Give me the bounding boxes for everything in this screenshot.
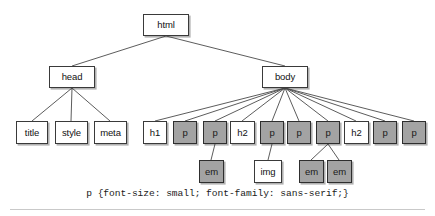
tree-node-p3[interactable]: p	[260, 121, 284, 144]
tree-node-em1[interactable]: em	[199, 160, 224, 183]
tree-edge-p2-em1	[211, 144, 215, 160]
tree-node-p7[interactable]: p	[402, 121, 426, 144]
tree-node-label: p	[269, 128, 274, 138]
tree-node-style[interactable]: style	[55, 121, 88, 144]
tree-node-label: title	[25, 128, 39, 138]
tree-edge-head-style	[71, 88, 72, 121]
tree-edge-body-p4	[285, 88, 299, 121]
tree-node-label: p	[411, 128, 416, 138]
tree-node-label: p	[325, 128, 330, 138]
tree-node-label: h2	[351, 128, 361, 138]
bottom-divider	[10, 209, 425, 210]
tree-node-label: meta	[100, 128, 121, 138]
tree-node-label: head	[62, 72, 83, 82]
tree-node-h2b[interactable]: h2	[344, 121, 369, 144]
tree-node-label: body	[275, 72, 295, 82]
tree-edge-body-p7	[285, 88, 414, 121]
tree-node-label: img	[260, 167, 275, 177]
tree-edge-body-p5	[285, 88, 328, 121]
tree-edge-body-p6	[285, 88, 385, 121]
tree-node-html[interactable]: html	[143, 14, 189, 36]
tree-node-label: h2	[237, 128, 247, 138]
tree-node-head[interactable]: head	[49, 66, 95, 88]
tree-node-label: p	[296, 128, 301, 138]
tree-node-label: p	[182, 128, 187, 138]
tree-node-label: em	[205, 167, 218, 177]
tree-node-em2[interactable]: em	[299, 160, 324, 183]
tree-node-title[interactable]: title	[16, 121, 48, 144]
tree-node-label: p	[382, 128, 387, 138]
tree-node-p6[interactable]: p	[373, 121, 397, 144]
tree-edge-head-title	[32, 88, 72, 121]
tree-edge-html-body	[166, 36, 285, 66]
dom-tree-diagram: htmlheadbodytitlestylemetah1pph2ppph2ppe…	[0, 0, 435, 216]
tree-edge-layer	[0, 0, 435, 216]
tree-edge-p5-em3	[328, 144, 339, 160]
tree-node-meta[interactable]: meta	[94, 121, 127, 144]
tree-node-label: p	[212, 128, 217, 138]
tree-edge-body-p3	[272, 88, 285, 121]
tree-edge-body-p1	[185, 88, 285, 121]
tree-edge-p5-em2	[311, 144, 328, 160]
tree-node-body[interactable]: body	[262, 66, 308, 88]
tree-node-p2[interactable]: p	[203, 121, 227, 144]
tree-edge-html-head	[72, 36, 166, 66]
tree-node-label: html	[157, 20, 175, 30]
tree-edge-body-h2a	[242, 88, 285, 121]
tree-edge-body-h2b	[285, 88, 356, 121]
tree-edge-body-p2	[215, 88, 285, 121]
tree-edge-body-h1a	[155, 88, 285, 121]
tree-node-label: em	[305, 167, 318, 177]
tree-node-em3[interactable]: em	[327, 160, 352, 183]
tree-node-label: style	[62, 128, 81, 138]
tree-node-p4[interactable]: p	[287, 121, 311, 144]
tree-node-h2a[interactable]: h2	[230, 121, 255, 144]
tree-edge-head-meta	[72, 88, 110, 121]
tree-edge-p3-img	[268, 144, 272, 160]
css-rule-caption: p {font-size: small; font-family: sans-s…	[0, 188, 435, 199]
tree-node-img[interactable]: img	[254, 160, 282, 183]
tree-node-label: em	[333, 167, 346, 177]
tree-node-h1a[interactable]: h1	[143, 121, 167, 144]
tree-node-p5[interactable]: p	[316, 121, 340, 144]
tree-node-label: h1	[150, 128, 160, 138]
tree-node-p1[interactable]: p	[173, 121, 197, 144]
